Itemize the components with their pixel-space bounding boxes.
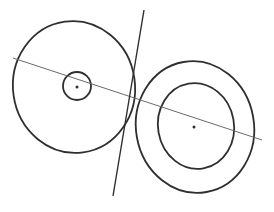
geometry-figure bbox=[0, 0, 274, 212]
right-center-dot bbox=[193, 126, 196, 129]
diagram-canvas bbox=[0, 0, 274, 212]
left-center-dot bbox=[76, 86, 79, 89]
